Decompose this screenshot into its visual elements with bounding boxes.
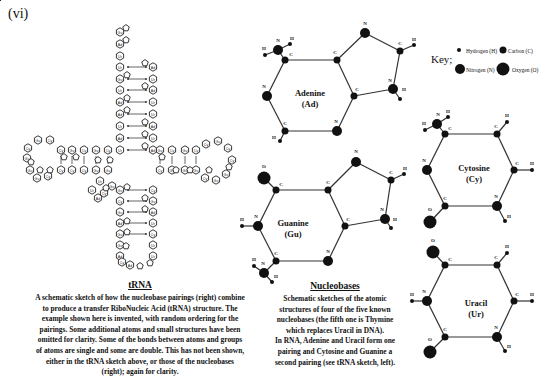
trna-caption-title: tRNA [35, 280, 245, 290]
atom-label: H [446, 109, 450, 114]
nucleobase-label: Ad [118, 222, 122, 226]
sugar-node [47, 167, 53, 173]
nucleobase-label: Gu [94, 169, 99, 173]
sugar-node [124, 184, 130, 190]
atom-label: C [355, 87, 359, 92]
atom-label: H [403, 166, 407, 171]
atom-n [388, 84, 398, 94]
atom-h [446, 115, 450, 119]
uracil-abbr: (Ur) [446, 309, 506, 320]
nucleobase-label: Cy [194, 149, 199, 153]
atom-label: C [283, 121, 287, 126]
atom-label: N [363, 21, 367, 26]
atom-label: H [412, 37, 416, 42]
nucleobase-label: Cy [170, 149, 175, 153]
atom-c [500, 47, 507, 54]
atom-h [389, 226, 393, 230]
nucleobase-label: Cy [82, 169, 87, 173]
bond-line [393, 51, 400, 89]
sugar-node [142, 83, 148, 89]
pair-dot [127, 125, 129, 127]
atom-label: C [346, 217, 350, 222]
atom-label: N [494, 194, 498, 199]
sugar-node [73, 154, 79, 160]
atom-c [342, 223, 349, 230]
pair-dot [127, 89, 129, 91]
atom-label: C [398, 41, 402, 46]
nucleobase-label: Gu [118, 233, 123, 237]
sugar-node [206, 167, 212, 173]
nucleobase-label: Cy [120, 261, 125, 265]
atom-h [278, 139, 282, 143]
atom-c [442, 262, 449, 269]
pair-dot [127, 78, 129, 80]
cytosine-name: Cytosine [444, 163, 504, 174]
atom-h [288, 42, 292, 46]
atom-label: N [326, 249, 330, 254]
atom-label: C [389, 170, 393, 175]
atom-label: C [448, 257, 452, 262]
atom-h [457, 48, 461, 52]
atom-label: N [422, 158, 426, 163]
atom-n [323, 256, 333, 266]
nucleobase-label: Gu [70, 149, 75, 153]
atom-label: N [436, 112, 440, 117]
atom-label: C [279, 182, 283, 187]
atom-h [240, 224, 244, 228]
atom-label: H [402, 87, 406, 92]
atom-c [273, 187, 280, 194]
pair-dot [127, 113, 129, 115]
key-title: Key; [431, 53, 452, 65]
nucleobases-caption-text1: Schematic sketches of the atomic structu… [270, 294, 400, 336]
sugar-node [142, 131, 148, 137]
atom-c [334, 57, 341, 64]
pair-dot [145, 89, 147, 91]
trna-caption: tRNA A schematic sketch of how the nucle… [35, 280, 245, 377]
atom-label: C [326, 180, 330, 185]
pair-dot [127, 211, 129, 213]
atom-c [442, 131, 449, 138]
atom-n [432, 119, 442, 129]
pair-dot [127, 149, 129, 151]
atom-label: N [276, 38, 280, 43]
nucleobase-label: Gu [36, 139, 41, 143]
atom-o [424, 216, 437, 229]
nucleobase-label: Gu [118, 244, 123, 248]
nucleobase-label: Gu [94, 149, 99, 153]
atom-h [530, 299, 534, 303]
atom-h [503, 349, 507, 353]
pair-dot [127, 101, 129, 103]
atom-label: O [431, 238, 435, 243]
nucleobase-label: Ad [118, 43, 122, 47]
atom-n [253, 221, 263, 231]
bond-line [328, 190, 345, 226]
pair-dot [145, 137, 147, 139]
pair-dot [145, 101, 147, 103]
atom-c [511, 298, 518, 305]
atom-label: H [530, 161, 534, 166]
nucleobases-caption-text2: In RNA, Adenine and Uracil form one pair… [270, 336, 400, 368]
pair-dot [145, 222, 147, 224]
atom-h [402, 172, 406, 176]
atom-label: N [380, 207, 384, 212]
nucleobase-label: Cy [48, 139, 53, 143]
nucleobase-label: Gu [224, 173, 229, 177]
nucleobase-label: Ad [96, 197, 100, 201]
nucleobase-label: Gu [110, 185, 115, 189]
guanine-abbr: (Gu) [263, 229, 323, 240]
bond-line [328, 226, 345, 261]
atom-h [505, 120, 509, 124]
nucleobase-label: Cy [203, 177, 208, 181]
bond-line [427, 134, 445, 170]
pair-dot [0, 0, 1, 1]
nucleobase-label: Gu [214, 179, 219, 183]
sugar-node [124, 95, 130, 101]
atom-label: C [443, 327, 447, 332]
atom-n [380, 214, 390, 224]
nucleobase-label: Cy [151, 233, 156, 237]
bond-line [345, 219, 385, 226]
atom-h [410, 299, 414, 303]
sugar-node [123, 25, 129, 31]
sugar-node [61, 154, 67, 160]
sugar-node [142, 195, 148, 201]
